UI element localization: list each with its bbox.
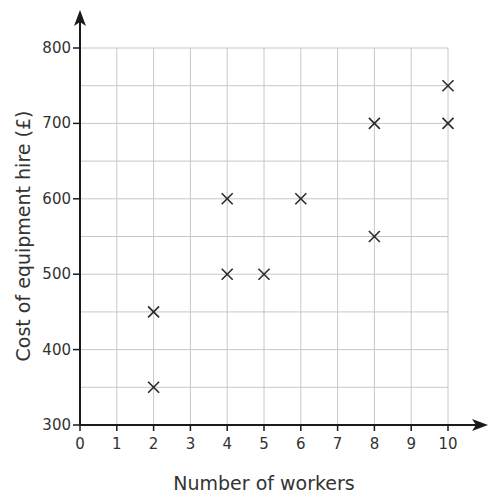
x-tick-label: 10: [438, 435, 457, 453]
axes: [74, 10, 488, 431]
y-axis-ticks: 300400500600700800: [42, 39, 80, 434]
x-tick-label: 8: [370, 435, 380, 453]
grid-lines: [80, 48, 448, 425]
y-tick-label: 400: [42, 341, 71, 359]
x-axis-title: Number of workers: [173, 472, 354, 494]
y-tick-label: 700: [42, 114, 71, 132]
scatter-chart: 012345678910 300400500600700800 Number o…: [0, 0, 500, 501]
x-tick-label: 5: [259, 435, 269, 453]
x-tick-label: 3: [186, 435, 196, 453]
y-tick-label: 300: [42, 416, 71, 434]
x-tick-label: 6: [296, 435, 306, 453]
y-tick-label: 600: [42, 190, 71, 208]
y-axis-title: Cost of equipment hire (£): [12, 111, 34, 362]
x-tick-label: 7: [333, 435, 343, 453]
x-tick-label: 1: [112, 435, 122, 453]
x-tick-label: 0: [75, 435, 85, 453]
y-tick-label: 800: [42, 39, 71, 57]
x-axis-ticks: 012345678910: [75, 425, 457, 453]
x-tick-label: 9: [406, 435, 416, 453]
x-tick-label: 2: [149, 435, 159, 453]
y-tick-label: 500: [42, 265, 71, 283]
x-tick-label: 4: [222, 435, 232, 453]
